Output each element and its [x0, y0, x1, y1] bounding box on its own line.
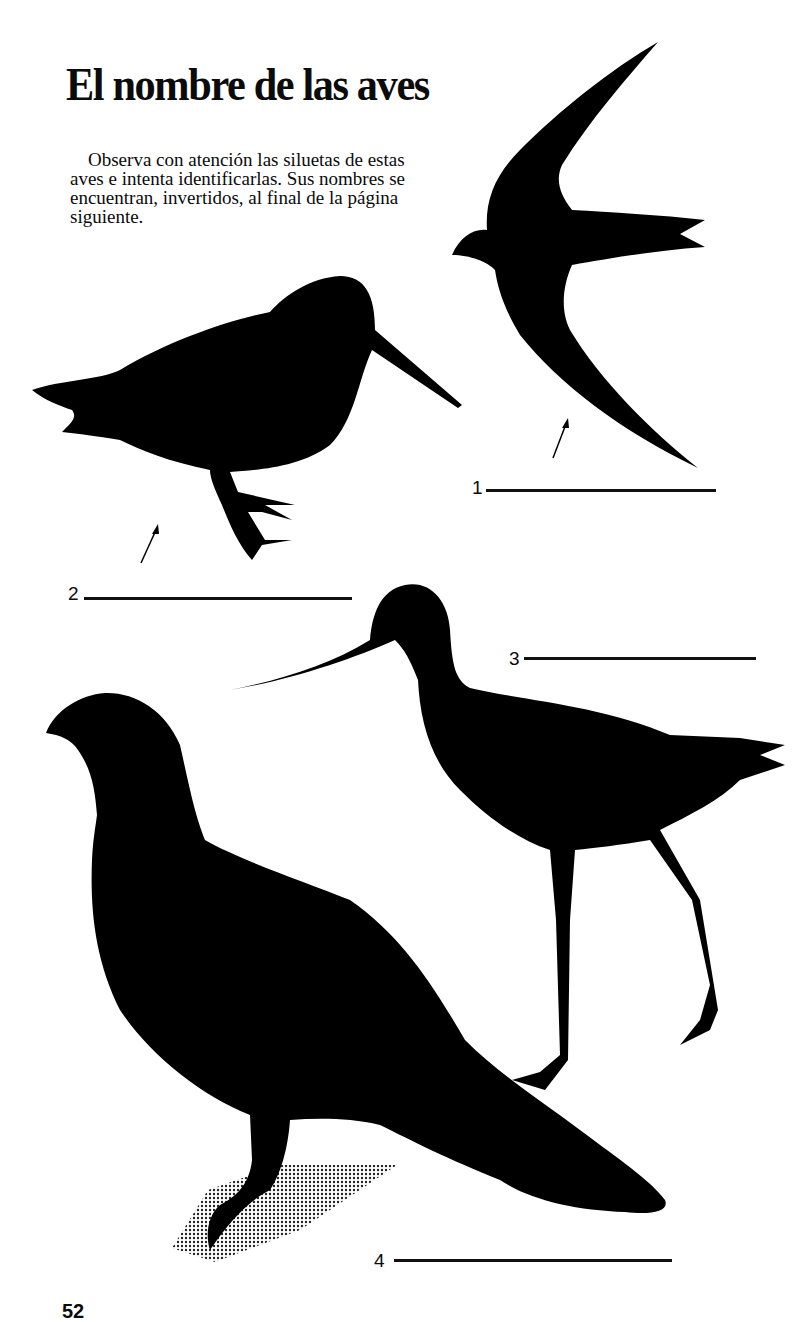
silhouette-1-swift — [452, 42, 705, 468]
answer-1-number: 1 — [472, 478, 483, 497]
answer-1-line[interactable] — [486, 489, 716, 492]
answer-3-number: 3 — [509, 649, 520, 668]
page-number: 52 — [62, 1300, 84, 1322]
arrow-1-icon — [553, 418, 569, 458]
answer-4-number: 4 — [374, 1251, 385, 1270]
arrow-2-icon — [141, 524, 159, 563]
answer-2-number: 2 — [68, 584, 79, 603]
answer-3-line[interactable] — [524, 657, 756, 660]
answer-4-line[interactable] — [394, 1259, 672, 1262]
answer-2-line[interactable] — [84, 597, 352, 600]
silhouette-2-woodcock — [32, 276, 462, 560]
